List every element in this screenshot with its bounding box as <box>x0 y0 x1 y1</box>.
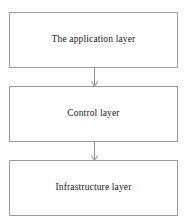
layer-box-infrastructure: Infrastructure layer <box>9 160 178 216</box>
connector-application-to-control <box>86 68 103 87</box>
connector-control-to-infrastructure <box>86 142 103 161</box>
arrow-down-icon <box>86 68 103 87</box>
layer-label-infrastructure: Infrastructure layer <box>55 183 131 193</box>
arrow-down-icon <box>86 142 103 161</box>
layer-label-control: Control layer <box>67 109 119 119</box>
layered-architecture-diagram: The application layer Control layer Infr… <box>0 0 189 221</box>
layer-box-control: Control layer <box>9 86 178 142</box>
layer-box-application: The application layer <box>9 12 178 68</box>
layer-label-application: The application layer <box>52 35 136 45</box>
